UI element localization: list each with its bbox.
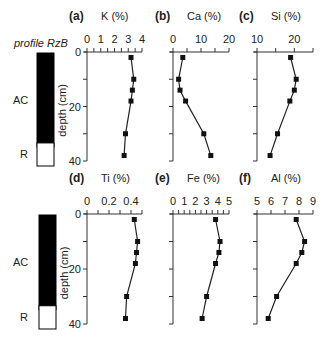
x-tick-label: 7: [282, 195, 288, 207]
soil-profile-figure: profile RzB ACRdepth (cm) ACRdepth (cm) …: [0, 0, 335, 345]
horizon-label: R: [20, 148, 28, 160]
panel-title: Fe (%): [187, 172, 220, 184]
data-point: [133, 261, 138, 266]
data-point: [176, 77, 181, 82]
data-point: [129, 55, 134, 60]
y-tick-label: 20: [69, 101, 81, 113]
panel-title: Ca (%): [187, 10, 221, 22]
data-point: [292, 88, 297, 93]
horizon-column-top: ACRdepth (cm): [13, 53, 68, 166]
data-point: [294, 261, 299, 266]
data-point: [275, 131, 280, 136]
horizon-label: AC: [13, 94, 28, 106]
x-tick-label: 0.4: [123, 195, 138, 207]
x-tick-label: 1: [98, 33, 104, 45]
data-point: [200, 316, 205, 321]
element-panels: (a)K (%)0123402040(b)Ca (%)01020(c)Si (%…: [69, 9, 316, 330]
chart-canvas: profile RzB ACRdepth (cm) ACRdepth (cm) …: [0, 0, 335, 345]
data-point: [132, 217, 137, 222]
panel-letter: (c): [239, 9, 254, 23]
x-tick-label: 2: [111, 33, 117, 45]
x-tick-label: 0.2: [101, 195, 116, 207]
y-tick-label: 0: [75, 208, 81, 220]
data-point: [123, 131, 128, 136]
data-point: [274, 294, 279, 299]
data-line: [179, 58, 211, 156]
data-point: [299, 250, 304, 255]
profile-label: profile RzB: [13, 37, 68, 49]
x-tick-label: 0: [170, 33, 176, 45]
x-tick-label: 5: [226, 195, 232, 207]
data-point: [134, 250, 139, 255]
x-tick-label: 20: [223, 33, 235, 45]
x-tick-label: 1: [181, 195, 187, 207]
panel-letter: (d): [69, 171, 84, 185]
data-point: [180, 55, 185, 60]
panel-title: Ti (%): [101, 172, 130, 184]
data-point: [213, 217, 218, 222]
x-tick-label: 0: [170, 195, 176, 207]
data-line: [270, 58, 296, 156]
panel-letter: (a): [69, 9, 84, 23]
data-point: [130, 88, 135, 93]
y-tick-label: 20: [69, 263, 81, 275]
panel-ca: (b)Ca (%)01020: [155, 9, 235, 161]
x-tick-label: 10: [251, 33, 263, 45]
panel-si: (c)Si (%)1020: [239, 9, 313, 161]
panel-title: Si (%): [271, 10, 301, 22]
data-point: [288, 55, 293, 60]
data-line: [202, 220, 220, 319]
data-point: [135, 239, 140, 244]
data-point: [302, 239, 307, 244]
data-line: [268, 220, 304, 319]
data-point: [213, 261, 218, 266]
data-point: [294, 77, 299, 82]
data-point: [201, 131, 206, 136]
horizon-ac: [37, 53, 54, 147]
panel-al: (f)Al (%)56789: [239, 171, 316, 324]
panel-ti: (d)Ti (%)00.20.402040: [69, 171, 142, 330]
data-point: [266, 316, 271, 321]
data-point: [216, 250, 221, 255]
data-point: [122, 153, 127, 158]
x-tick-label: 4: [215, 195, 221, 207]
y-tick-label: 40: [69, 318, 81, 330]
x-tick-label: 4: [139, 33, 145, 45]
panel-k: (a)K (%)0123402040: [69, 9, 145, 167]
panel-title: Al (%): [271, 172, 301, 184]
horizon-column-bottom: ACRdepth (cm): [13, 215, 70, 329]
x-tick-label: 9: [310, 195, 316, 207]
horizon-label: R: [20, 311, 28, 323]
data-point: [178, 88, 183, 93]
data-point: [183, 99, 188, 104]
data-point: [124, 294, 129, 299]
horizon-r: [39, 306, 56, 329]
horizon-ac: [39, 215, 56, 310]
horizon-label: AC: [13, 256, 28, 268]
data-point: [123, 316, 128, 321]
x-tick-label: 8: [296, 195, 302, 207]
data-point: [268, 153, 273, 158]
x-tick-label: 3: [125, 33, 131, 45]
panel-letter: (b): [155, 9, 170, 23]
x-tick-label: 10: [195, 33, 207, 45]
data-point: [204, 294, 209, 299]
data-point: [287, 99, 292, 104]
depth-axis-label: depth (cm): [56, 84, 68, 137]
data-point: [129, 99, 134, 104]
x-tick-label: 0: [84, 33, 90, 45]
panel-letter: (e): [155, 171, 170, 185]
data-line: [124, 58, 134, 156]
x-tick-label: 6: [268, 195, 274, 207]
panel-fe: (e)Fe (%)012345: [155, 171, 232, 324]
x-tick-label: 2: [192, 195, 198, 207]
x-tick-label: 5: [254, 195, 260, 207]
x-tick-label: 0: [84, 195, 90, 207]
y-tick-label: 40: [69, 155, 81, 167]
data-point: [131, 77, 136, 82]
x-tick-label: 3: [204, 195, 210, 207]
data-point: [208, 153, 213, 158]
data-line: [126, 220, 138, 319]
horizon-r: [37, 143, 54, 166]
data-point: [218, 239, 223, 244]
